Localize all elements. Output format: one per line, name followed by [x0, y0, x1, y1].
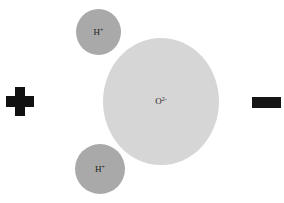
hydrogen-atom-top: H+: [76, 9, 121, 55]
hydrogen-top-label: H+: [94, 28, 104, 37]
water-dipole-diagram: O2- H+ H+: [0, 0, 284, 203]
minus-sign-icon: [252, 97, 281, 108]
hydrogen-atom-bottom: H+: [75, 144, 125, 194]
hydrogen-bottom-label: H+: [95, 165, 105, 174]
plus-sign-icon-bar: [6, 96, 34, 107]
oxygen-label: O2-: [155, 97, 167, 106]
oxygen-atom: O2-: [103, 38, 219, 165]
